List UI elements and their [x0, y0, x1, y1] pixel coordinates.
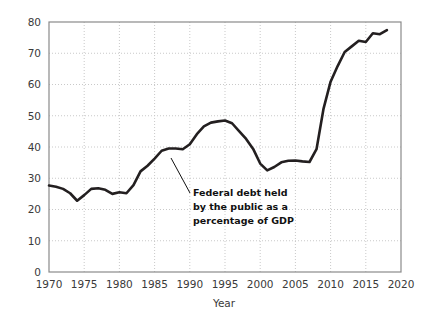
annotation-line: by the public as a [193, 201, 288, 212]
x-tick-label: 1985 [141, 278, 168, 290]
x-tick-label: 2015 [352, 278, 379, 290]
y-tick-label: 0 [34, 266, 41, 278]
y-tick-label: 40 [28, 141, 41, 153]
x-tick-label: 2000 [247, 278, 274, 290]
y-tick-label: 30 [28, 172, 41, 184]
y-tick-label: 60 [28, 78, 41, 90]
y-tick-label: 20 [28, 203, 41, 215]
x-tick-label: 2005 [282, 278, 309, 290]
x-tick-label: 1980 [106, 278, 133, 290]
annotation-line: percentage of GDP [193, 215, 294, 226]
y-tick-label: 80 [28, 16, 41, 28]
x-axis-tick-labels: 1970197519801985199019952000200520102015… [36, 278, 415, 290]
x-tick-label: 1975 [71, 278, 98, 290]
x-axis-title: Year [212, 297, 236, 309]
x-tick-label: 1995 [212, 278, 239, 290]
annotation-line: Federal debt held [193, 187, 288, 198]
chart-figure: 01020304050607080 1970197519801985199019… [0, 0, 428, 318]
y-tick-label: 70 [28, 47, 41, 59]
x-tick-label: 1990 [176, 278, 203, 290]
debt-to-gdp-line-chart: 01020304050607080 1970197519801985199019… [0, 0, 428, 318]
y-axis-tick-labels: 01020304050607080 [28, 16, 41, 278]
y-tick-label: 10 [28, 235, 41, 247]
chart-background [0, 0, 428, 318]
x-tick-label: 1970 [36, 278, 63, 290]
y-tick-label: 50 [28, 110, 41, 122]
x-tick-label: 2010 [317, 278, 344, 290]
x-tick-label: 2020 [388, 278, 415, 290]
